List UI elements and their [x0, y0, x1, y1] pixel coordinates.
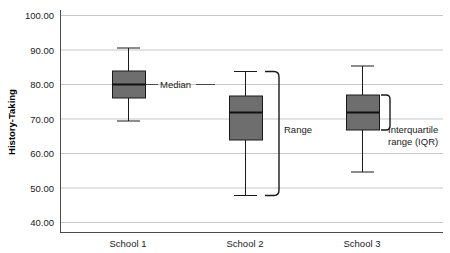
annotation-label-range: Range: [284, 124, 312, 135]
annotation-label-iqr-line1: Interquartile: [388, 124, 438, 135]
y-tick-label: 100.00: [25, 10, 54, 21]
x-tick-label-school-1: School 1: [110, 238, 147, 249]
x-tick-labels: School 1 School 2 School 3: [110, 238, 381, 249]
y-tick-label: 90.00: [30, 45, 54, 56]
box-iqr: [230, 96, 263, 140]
y-tick-label: 40.00: [30, 217, 54, 228]
annotation-median: Median: [146, 79, 216, 90]
annotation-iqr: Interquartile range (IQR): [381, 95, 438, 147]
annotation-range: Range: [265, 72, 312, 196]
chart-canvas: 100.00 90.00 80.00 70.00 60.00 50.00 40.…: [0, 0, 450, 253]
y-tick-label: 80.00: [30, 79, 54, 90]
y-tick-label: 60.00: [30, 148, 54, 159]
box-school-2: [230, 72, 263, 196]
boxplot-figure: 100.00 90.00 80.00 70.00 60.00 50.00 40.…: [0, 0, 450, 253]
box-school-3: [347, 66, 380, 172]
y-tick-label: 50.00: [30, 183, 54, 194]
x-tick-label-school-3: School 3: [344, 238, 381, 249]
x-tick-label-school-2: School 2: [227, 238, 264, 249]
box-school-1: [113, 48, 146, 121]
annotation-label-iqr-line2: range (IQR): [388, 136, 438, 147]
y-axis-title: History-Taking: [6, 89, 17, 155]
y-tick-labels: 100.00 90.00 80.00 70.00 60.00 50.00 40.…: [25, 10, 54, 228]
annotation-label-median: Median: [160, 79, 191, 90]
range-bracket: [265, 72, 279, 196]
y-tick-label: 70.00: [30, 114, 54, 125]
